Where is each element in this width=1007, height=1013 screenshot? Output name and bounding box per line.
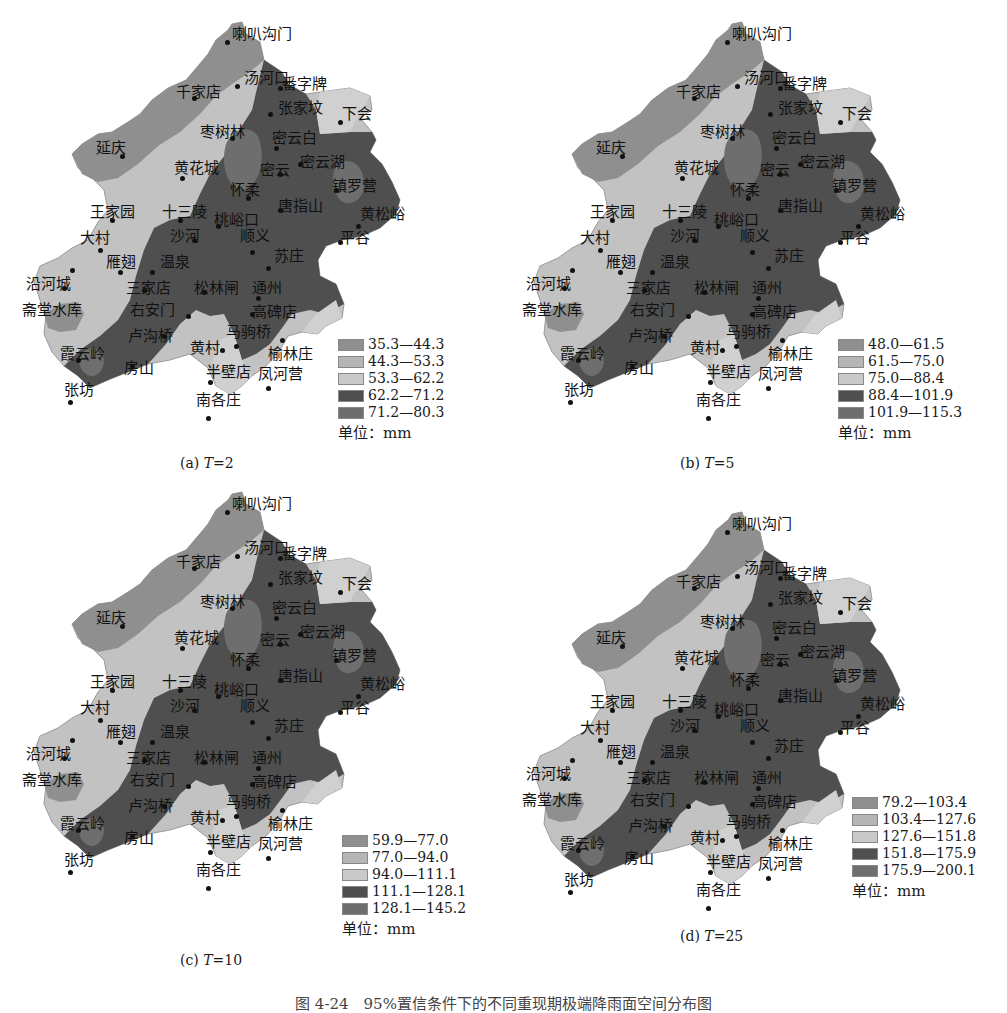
station-label: 张家坟 bbox=[278, 100, 323, 116]
station-label: 番字牌 bbox=[782, 566, 827, 582]
legend-swatch bbox=[852, 797, 878, 809]
station-marker-icon bbox=[120, 154, 125, 159]
station-marker-icon bbox=[650, 270, 655, 275]
station-label: 千家店 bbox=[176, 554, 221, 570]
legend-swatch bbox=[342, 903, 368, 915]
legend-swatch bbox=[838, 373, 864, 385]
station-label: 枣树林 bbox=[200, 594, 245, 610]
station-marker-icon bbox=[180, 176, 185, 181]
legend-row: 75.0—88.4 bbox=[838, 370, 962, 387]
station-marker-icon bbox=[734, 834, 739, 839]
station-label: 霞云岭 bbox=[560, 836, 605, 852]
station-marker-icon bbox=[256, 296, 261, 301]
station-marker-icon bbox=[280, 338, 285, 343]
legend-swatch bbox=[838, 356, 864, 368]
station-label: 下会 bbox=[342, 106, 372, 122]
station-marker-icon bbox=[756, 296, 761, 301]
station-label: 雁翅 bbox=[606, 254, 636, 270]
station-marker-icon bbox=[266, 266, 271, 271]
station-marker-icon bbox=[266, 736, 271, 741]
station-marker-icon bbox=[70, 738, 75, 743]
station-label: 苏庄 bbox=[274, 248, 304, 264]
legend-row: 151.8—175.9 bbox=[852, 845, 976, 862]
station-label: 顺义 bbox=[740, 718, 770, 734]
station-marker-icon bbox=[708, 380, 713, 385]
station-label: 房山 bbox=[624, 850, 654, 866]
subfigure-caption: (d) T=25 bbox=[680, 928, 743, 944]
station-marker-icon bbox=[266, 856, 271, 861]
station-marker-icon bbox=[692, 728, 697, 733]
station-label: 三家店 bbox=[126, 750, 171, 766]
station-label: 千家店 bbox=[676, 574, 721, 590]
legend-swatch bbox=[338, 356, 364, 368]
station-label: 松林闸 bbox=[194, 750, 239, 766]
station-label: 三家店 bbox=[626, 770, 671, 786]
station-label: 松林闸 bbox=[694, 770, 739, 786]
legend-swatch bbox=[338, 339, 364, 351]
station-marker-icon bbox=[838, 610, 843, 615]
caption-value: =5 bbox=[714, 455, 735, 471]
station-marker-icon bbox=[774, 146, 779, 151]
station-label: 霞云岭 bbox=[60, 816, 105, 832]
station-marker-icon bbox=[686, 314, 691, 319]
station-label: 南各庄 bbox=[696, 392, 741, 408]
station-marker-icon bbox=[662, 824, 667, 829]
station-marker-icon bbox=[334, 188, 339, 193]
station-label: 张坊 bbox=[564, 872, 594, 888]
station-marker-icon bbox=[120, 624, 125, 629]
station-label: 密云白 bbox=[272, 600, 317, 616]
station-marker-icon bbox=[576, 358, 581, 363]
station-label: 番字牌 bbox=[282, 546, 327, 562]
station-marker-icon bbox=[235, 554, 240, 559]
station-label: 密云湖 bbox=[800, 644, 845, 660]
station-marker-icon bbox=[766, 756, 771, 761]
legend-label: 79.2—103.4 bbox=[882, 794, 967, 811]
legend-label: 35.3—44.3 bbox=[368, 336, 444, 353]
unit-label: 单位：mm bbox=[342, 921, 466, 938]
station-marker-icon bbox=[278, 86, 283, 91]
legend-row: 48.0—61.5 bbox=[838, 336, 962, 353]
station-marker-icon bbox=[778, 576, 783, 581]
station-label: 斋堂水库 bbox=[522, 302, 582, 318]
station-marker-icon bbox=[725, 530, 730, 535]
station-marker-icon bbox=[630, 364, 635, 369]
station-label: 张家坟 bbox=[778, 100, 823, 116]
station-label: 镇罗营 bbox=[332, 648, 377, 664]
station-marker-icon bbox=[206, 886, 211, 891]
station-marker-icon bbox=[756, 786, 761, 791]
legend-label: 175.9—200.1 bbox=[882, 862, 976, 879]
station-marker-icon bbox=[250, 782, 255, 787]
caption-variable: T bbox=[203, 952, 212, 968]
station-label: 高碑店 bbox=[252, 304, 297, 320]
station-label: 千家店 bbox=[676, 84, 721, 100]
station-label: 黄花城 bbox=[674, 160, 719, 176]
station-label: 大村 bbox=[580, 720, 610, 736]
station-label: 雁翅 bbox=[106, 724, 136, 740]
station-label: 苏庄 bbox=[774, 248, 804, 264]
station-label: 马驹桥 bbox=[226, 794, 271, 810]
station-marker-icon bbox=[338, 120, 343, 125]
legend-label: 48.0—61.5 bbox=[868, 336, 944, 353]
caption-value: =2 bbox=[213, 455, 234, 471]
station-marker-icon bbox=[216, 694, 221, 699]
station-label: 通州 bbox=[252, 280, 282, 296]
station-marker-icon bbox=[230, 606, 235, 611]
station-label: 顺义 bbox=[240, 228, 270, 244]
station-label: 唐指山 bbox=[278, 668, 323, 684]
station-marker-icon bbox=[702, 780, 707, 785]
station-label: 大村 bbox=[580, 230, 610, 246]
station-marker-icon bbox=[220, 348, 225, 353]
station-label: 十三陵 bbox=[662, 694, 707, 710]
station-marker-icon bbox=[610, 218, 615, 223]
map-panel-d: 79.2—103.4 103.4—127.6 127.6—151.8 151.8… bbox=[520, 490, 1000, 960]
station-label: 右安门 bbox=[630, 302, 675, 318]
station-label: 高碑店 bbox=[252, 774, 297, 790]
station-marker-icon bbox=[735, 84, 740, 89]
station-marker-icon bbox=[734, 344, 739, 349]
subfigure-caption: (c) T=10 bbox=[180, 952, 242, 968]
station-label: 枣树林 bbox=[200, 124, 245, 140]
station-marker-icon bbox=[180, 646, 185, 651]
station-marker-icon bbox=[250, 312, 255, 317]
station-marker-icon bbox=[620, 154, 625, 159]
map-legend: 59.9—77.0 77.0—94.0 94.0—111.1 111.1—128… bbox=[342, 832, 466, 938]
